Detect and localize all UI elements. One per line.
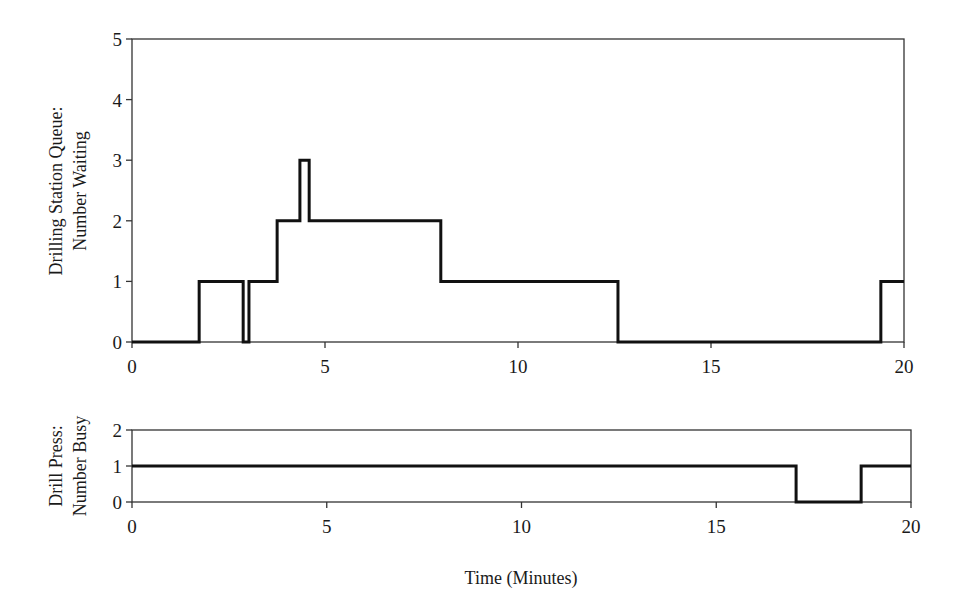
y-tick-label: 0 <box>113 492 123 513</box>
y-tick-label: 4 <box>113 90 123 111</box>
x-tick-label: 5 <box>320 356 330 377</box>
figure: 012345 05101520 Drilling Station Queue: … <box>0 0 958 611</box>
x-tick-label: 15 <box>702 356 721 377</box>
drill-press-chart-y-ticks: 012 <box>113 420 133 513</box>
y-tick-label: 0 <box>113 332 123 353</box>
x-tick-label: 20 <box>902 516 921 537</box>
drill-press-number-busy-line <box>132 466 911 502</box>
y-tick-label: 2 <box>113 420 123 441</box>
x-tick-label: 0 <box>127 516 137 537</box>
x-tick-label: 20 <box>895 356 914 377</box>
x-tick-label: 0 <box>127 356 137 377</box>
drill-press-chart-y-label-line1: Drill Press: <box>46 425 66 507</box>
drill-press-chart-y-label-line2: Number Busy <box>70 416 90 517</box>
queue-chart-x-ticks: 05101520 <box>127 342 913 377</box>
x-tick-label: 10 <box>509 356 528 377</box>
y-tick-label: 1 <box>113 271 123 292</box>
y-tick-label: 1 <box>113 456 123 477</box>
queue-chart-y-ticks: 012345 <box>113 29 133 353</box>
drill-press-chart-x-ticks: 05101520 <box>127 502 920 537</box>
y-tick-label: 2 <box>113 211 123 232</box>
queue-chart-y-label-line1: Drilling Station Queue: <box>46 107 66 276</box>
x-axis-title: Time (Minutes) <box>465 568 578 589</box>
queue-chart-y-label-line2: Number Waiting <box>70 131 90 251</box>
x-tick-label: 10 <box>512 516 531 537</box>
x-tick-label: 5 <box>322 516 332 537</box>
queue-chart: 012345 05101520 Drilling Station Queue: … <box>46 29 914 377</box>
queue-number-waiting-line <box>132 160 904 342</box>
y-tick-label: 3 <box>113 150 123 171</box>
y-tick-label: 5 <box>113 29 123 50</box>
x-tick-label: 15 <box>707 516 726 537</box>
drill-press-chart: 012 05101520 Drill Press: Number Busy Ti… <box>46 416 921 589</box>
